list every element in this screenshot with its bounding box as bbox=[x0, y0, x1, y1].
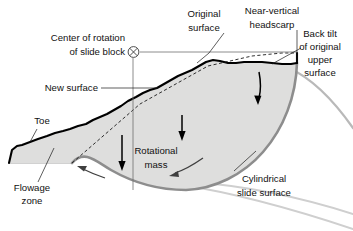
cylindrical-slide-surface-label-line2: slide surface bbox=[237, 187, 291, 198]
back-tilt-label-line3: upper bbox=[308, 54, 333, 65]
rotational-mass-label-line1: Rotational bbox=[134, 145, 177, 156]
back-tilt-label-line4: surface bbox=[304, 67, 335, 78]
toe-label: Toe bbox=[34, 115, 49, 126]
center-of-rotation-marker bbox=[128, 47, 139, 58]
cylindrical-slide-surface-label-line1: Cylindrical bbox=[242, 173, 286, 184]
rotational-mass-label-line2: mass bbox=[145, 159, 168, 170]
center-of-rotation-label-line2: of slide block bbox=[70, 46, 126, 57]
landslide-diagram: Center of rotation of slide block Origin… bbox=[0, 0, 353, 231]
original-surface-label-line1: Original bbox=[187, 8, 220, 19]
back-tilt-label-line2: of original bbox=[299, 41, 341, 52]
rotational-mass-body bbox=[9, 60, 297, 190]
flowage-zone-label-line2: zone bbox=[22, 195, 43, 206]
flowage-zone-label-line1: Flowage bbox=[14, 182, 50, 193]
original-surface-label-line2: surface bbox=[188, 22, 219, 33]
back-tilt-label-line1: Back tilt bbox=[303, 28, 337, 39]
rotation-arrow-toe bbox=[77, 166, 105, 178]
center-of-rotation-label-line1: Center of rotation bbox=[51, 32, 125, 43]
headscarp-label-line2: headscarp bbox=[250, 19, 295, 30]
diagram-canvas: Center of rotation of slide block Origin… bbox=[0, 0, 353, 231]
leader-original-surface bbox=[197, 33, 224, 63]
headscarp-label-line1: Near-vertical bbox=[245, 5, 299, 16]
new-surface-label: New surface bbox=[45, 82, 98, 93]
